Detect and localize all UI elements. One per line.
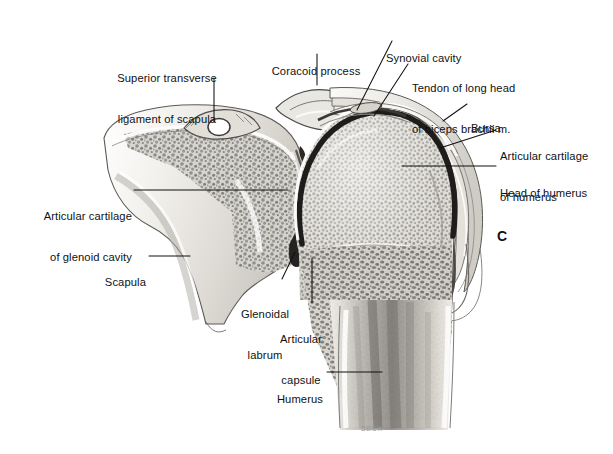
label-line: Head of humerus xyxy=(500,187,587,201)
label-superior-transverse-ligament: Superior transverse ligament of scapula xyxy=(107,45,227,153)
label-line: Scapula xyxy=(60,276,146,290)
label-humerus: Humerus xyxy=(255,366,323,434)
label-head-of-humerus: Head of humerus xyxy=(500,160,587,228)
label-line: Articular xyxy=(270,333,332,347)
label-coracoid-process: Coracoid process xyxy=(246,38,386,106)
label-scapula: Scapula xyxy=(60,249,146,317)
label-line: Superior transverse xyxy=(107,72,227,86)
label-line: Coracoid process xyxy=(246,65,386,79)
label-line: Humerus xyxy=(255,393,323,407)
label-bursa: Bursa xyxy=(471,95,501,163)
label-line: Tendon of long head xyxy=(412,82,515,96)
label-line: ligament of scapula xyxy=(107,113,227,127)
anatomy-figure: Superior transverse ligament of scapula … xyxy=(0,0,613,454)
label-line: Articular cartilage xyxy=(14,210,132,224)
artist-signature: BECK xyxy=(361,425,382,432)
panel-letter-c: C xyxy=(497,228,507,244)
label-line: Bursa xyxy=(471,122,501,136)
